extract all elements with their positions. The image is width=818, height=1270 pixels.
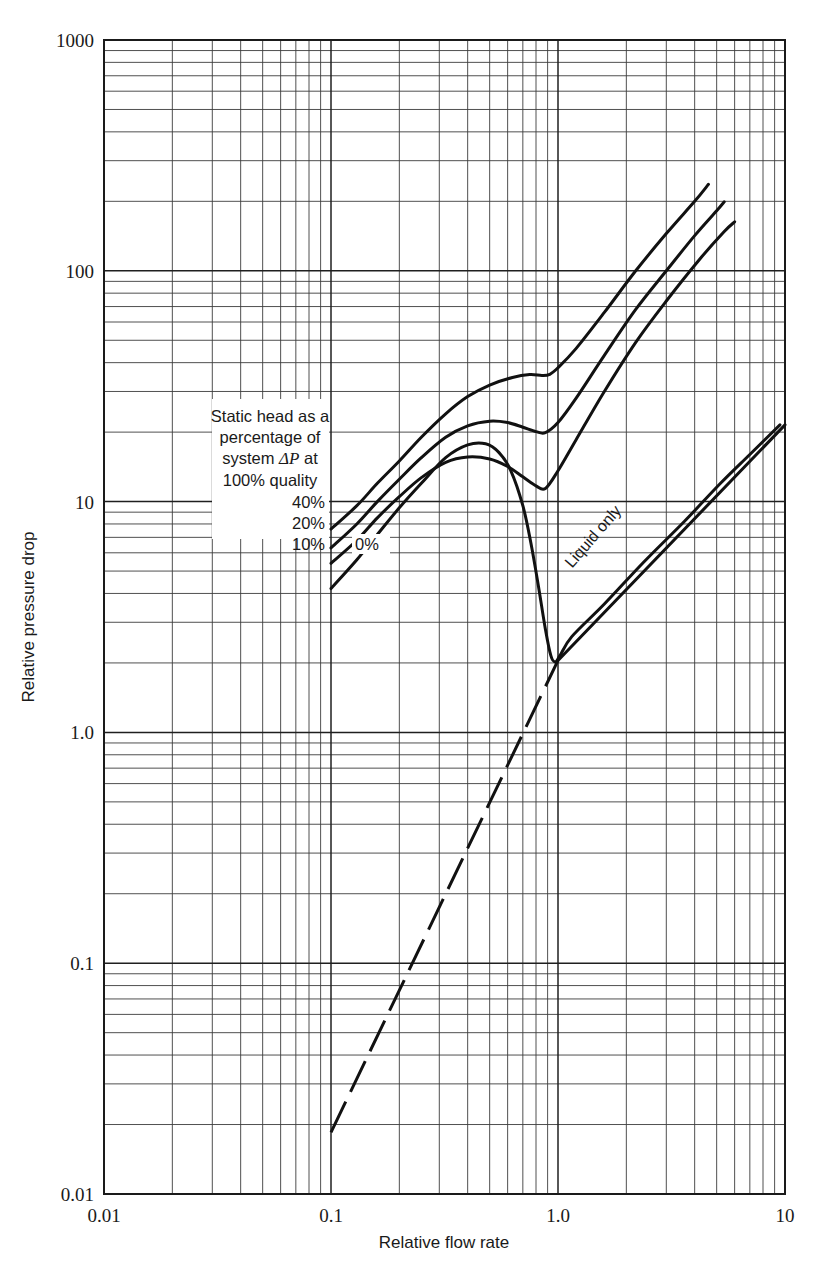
annotation-line-2: percentage of bbox=[220, 428, 321, 446]
annotation-line-3-post: at bbox=[299, 449, 318, 467]
annotation-line-1: Static head as a bbox=[211, 407, 330, 425]
x-tick-label: 0.01 bbox=[87, 1205, 120, 1226]
chart-background bbox=[0, 0, 818, 1270]
y-tick-label: 0.1 bbox=[70, 953, 94, 974]
y-tick-label: 0.01 bbox=[61, 1184, 94, 1205]
x-tick-label: 10 bbox=[776, 1205, 795, 1226]
series-label-0: 0% bbox=[355, 535, 379, 553]
y-tick-label: 100 bbox=[66, 261, 95, 282]
delta-p-symbol: ΔP bbox=[278, 449, 299, 468]
y-axis-title: Relative pressure drop bbox=[19, 531, 38, 702]
annotation-line-4: 100% quality bbox=[223, 471, 318, 489]
x-tick-label: 1.0 bbox=[546, 1205, 570, 1226]
y-tick-label: 1.0 bbox=[70, 722, 94, 743]
chart-root: 1000100101.00.10.01 0.010.11.010 Relativ… bbox=[0, 0, 818, 1270]
x-tick-label: 0.1 bbox=[319, 1205, 343, 1226]
annotation-line-3: system ΔP at bbox=[222, 449, 318, 468]
loglog-chart: 1000100101.00.10.01 0.010.11.010 Relativ… bbox=[0, 0, 818, 1270]
liquid-only-label-group: Liquid only bbox=[560, 487, 630, 592]
series-label-10: 10% bbox=[292, 535, 325, 553]
y-tick-label: 10 bbox=[75, 492, 94, 513]
annotation-line-3-pre: system bbox=[222, 449, 279, 467]
series-label-20: 20% bbox=[292, 514, 325, 532]
y-tick-label: 1000 bbox=[56, 30, 94, 51]
series-label-40: 40% bbox=[292, 493, 325, 511]
x-axis-title: Relative flow rate bbox=[379, 1233, 509, 1252]
